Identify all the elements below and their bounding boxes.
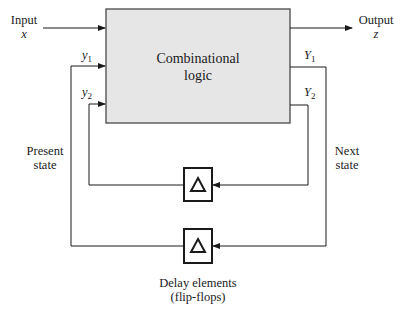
output-label: Output z xyxy=(356,13,396,41)
Y1-label: Y1 xyxy=(304,48,315,66)
delay-element-1 xyxy=(184,168,212,201)
delay-element-2 xyxy=(184,229,212,263)
next-state-label: Next state xyxy=(332,144,362,172)
input-label: Input x xyxy=(8,13,40,41)
delay-elements-caption: Delay elements (flip-flops) xyxy=(148,276,248,304)
Y2-label: Y2 xyxy=(304,85,315,103)
present-state-label: Present state xyxy=(24,144,66,172)
block-label: Combinational logic xyxy=(148,50,248,84)
y1-label: y1 xyxy=(82,48,92,66)
y2-label: y2 xyxy=(82,85,92,103)
